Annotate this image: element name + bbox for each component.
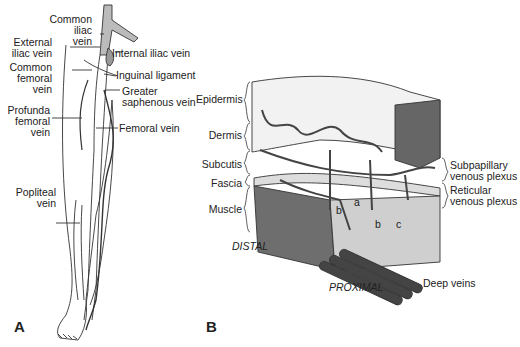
label-epidermis: Epidermis <box>196 94 242 105</box>
marker-a: a <box>354 197 360 208</box>
label-distal: DISTAL <box>232 241 268 252</box>
label-internal-iliac-vein: Internal iliac vein <box>112 48 190 59</box>
marker-b-lower: b <box>375 219 381 230</box>
label-external-iliac-vein: External iliac vein <box>4 37 52 59</box>
label-line: vein <box>10 198 56 209</box>
label-deep-veins: Deep veins <box>423 278 476 289</box>
label-popliteal-vein: Popliteal vein <box>10 187 56 209</box>
label-line: venous plexus <box>450 171 517 182</box>
label-line: venous plexus <box>450 196 517 207</box>
label-common-femoral-vein: Common femoral vein <box>4 62 52 95</box>
figure: Common iliac vein External iliac vein In… <box>0 0 520 347</box>
label-profunda-femoral-vein: Profunda femoral vein <box>2 105 50 138</box>
label-greater-saphenous-vein: Greater saphenous vein <box>122 86 196 108</box>
label-line: vein <box>48 36 92 47</box>
label-subpapillary-venous-plexus: Subpapillary venous plexus <box>450 160 517 182</box>
label-line: vein <box>4 84 52 95</box>
label-femoral-vein: Femoral vein <box>119 123 180 134</box>
label-fascia: Fascia <box>196 178 242 189</box>
label-reticular-venous-plexus: Reticular venous plexus <box>450 185 517 207</box>
label-common-iliac-vein: Common iliac vein <box>48 14 92 47</box>
label-dermis: Dermis <box>196 130 242 141</box>
label-line: iliac vein <box>4 48 52 59</box>
label-line: vein <box>2 127 50 138</box>
label-line: saphenous vein <box>122 97 196 108</box>
panel-label-a: A <box>14 318 25 335</box>
marker-b-upper: b <box>336 205 342 216</box>
label-inguinal-ligament: Inguinal ligament <box>116 70 195 81</box>
panel-label-b: B <box>206 318 217 335</box>
label-subcutis: Subcutis <box>196 159 242 170</box>
label-proximal: PROXIMAL <box>329 282 383 293</box>
label-muscle: Muscle <box>196 204 242 215</box>
leg-illustration <box>0 0 520 347</box>
marker-c: c <box>396 219 401 230</box>
